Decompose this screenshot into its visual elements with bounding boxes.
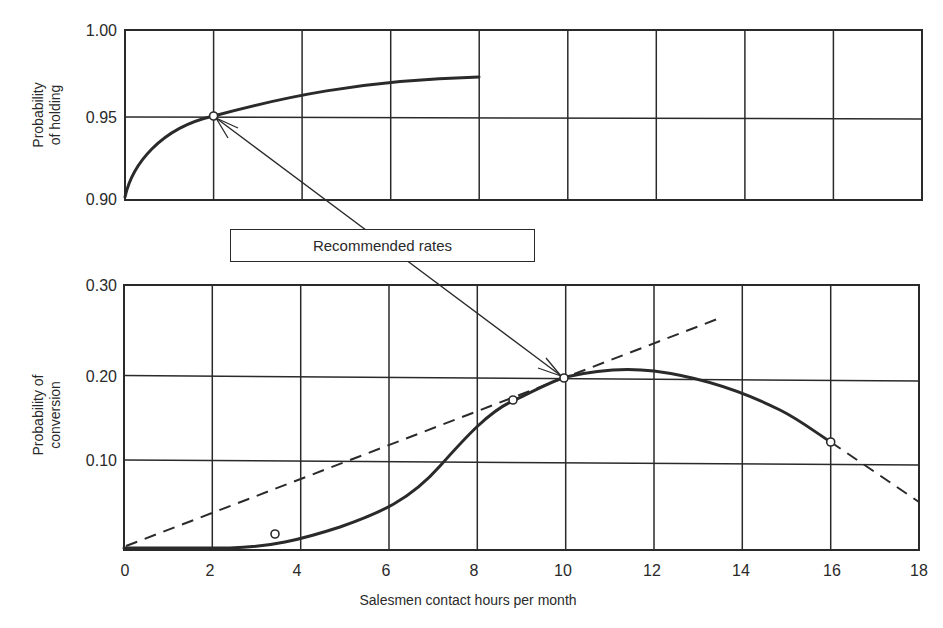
svg-text:14: 14	[732, 562, 750, 579]
top-grid	[125, 30, 922, 200]
conversion-point-3-5	[271, 530, 279, 538]
svg-text:10: 10	[554, 562, 572, 579]
top-ylabel: Probability of holding	[30, 82, 63, 147]
svg-text:18: 18	[910, 562, 928, 579]
svg-text:2: 2	[206, 562, 215, 579]
recommended-rates-label: Recommended rates	[230, 229, 535, 262]
bottom-chart: 0.30 0.20 0.10 0 2 4 6 8 10 12 14 16 18 …	[30, 277, 928, 608]
svg-text:0: 0	[121, 562, 130, 579]
svg-text:Probability of: Probability of	[30, 374, 46, 455]
bottom-ytick-030: 0.30	[86, 277, 117, 294]
top-ytick-095: 0.95	[86, 109, 117, 126]
conversion-extrapolation-dashed	[831, 442, 919, 502]
svg-text:Probability: Probability	[30, 82, 46, 147]
svg-text:16: 16	[823, 562, 841, 579]
top-ytick-090: 0.90	[86, 191, 117, 208]
top-ytick-100: 1.00	[86, 22, 117, 39]
svg-text:conversion: conversion	[47, 381, 63, 449]
bottom-plot-frame	[124, 285, 919, 550]
top-chart: 1.00 0.95 0.90 Probability of holding	[30, 22, 922, 208]
bottom-xticks: 0 2 4 6 8 10 12 14 16 18	[121, 562, 928, 579]
chart-canvas: 1.00 0.95 0.90 Probability of holding	[0, 0, 943, 628]
conversion-point-8-9	[509, 396, 517, 404]
bottom-ylabel: Probability of conversion	[30, 374, 63, 455]
conversion-point-16	[827, 438, 835, 446]
top-plot-frame	[125, 30, 922, 200]
svg-text:6: 6	[382, 562, 391, 579]
svg-text:4: 4	[293, 562, 302, 579]
svg-text:8: 8	[470, 562, 479, 579]
bottom-xlabel: Salesmen contact hours per month	[359, 592, 576, 608]
tangent-dashed-line	[126, 318, 720, 546]
bottom-grid	[124, 285, 919, 550]
bottom-ytick-020: 0.20	[86, 368, 117, 385]
svg-text:of holding: of holding	[47, 85, 63, 146]
conversion-recommended-point	[560, 374, 568, 382]
bottom-ytick-010: 0.10	[86, 452, 117, 469]
svg-text:12: 12	[643, 562, 661, 579]
